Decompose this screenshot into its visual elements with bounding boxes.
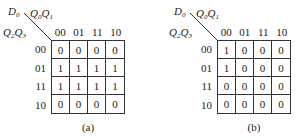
kmap-cell: 1: [106, 77, 124, 95]
column-variables-label: Q0Q1: [30, 8, 53, 23]
row-header: 01: [22, 63, 46, 74]
column-header: 11: [254, 27, 273, 38]
kmap-cell: 0: [106, 95, 124, 113]
kmap-cell: 1: [106, 59, 124, 77]
kmap-cell: 0: [272, 95, 290, 113]
column-header: 10: [273, 27, 292, 38]
row-header: 10: [22, 100, 46, 111]
karnaugh-map-a: D0 Q0Q1 Q2Q3 00 01 11 10 00 01 11 10 0 0…: [0, 0, 148, 138]
kmap-cell: 0: [52, 41, 70, 59]
kmap-grid: 0 0 0 0 1 1 1 1 1 1 1 1 0 0 0 0: [51, 40, 125, 114]
kmap-cell: 0: [254, 77, 272, 95]
output-variable-label: D0: [8, 6, 19, 21]
row-header: 01: [188, 63, 212, 74]
kmap-cell: 1: [70, 59, 88, 77]
kmap-cell: 1: [70, 77, 88, 95]
kmap-grid: 1 0 0 0 1 0 0 0 0 0 0 0 0 0 0 0: [217, 40, 291, 114]
kmap-cell: 0: [106, 41, 124, 59]
kmap-cell: 0: [218, 95, 236, 113]
kmap-cell: 0: [70, 95, 88, 113]
row-header: 00: [188, 44, 212, 55]
output-variable-label: D0: [174, 6, 185, 21]
column-header: 00: [217, 27, 236, 38]
kmap-cell: 0: [70, 41, 88, 59]
row-header: 11: [22, 81, 46, 92]
kmap-cell: 0: [236, 95, 254, 113]
kmap-cell: 0: [254, 95, 272, 113]
kmap-cell: 1: [52, 77, 70, 95]
figure-caption: (b): [217, 121, 291, 133]
column-header: 01: [236, 27, 255, 38]
kmap-cell: 1: [218, 41, 236, 59]
row-header: 11: [188, 81, 212, 92]
kmap-cell: 0: [236, 41, 254, 59]
kmap-cell: 1: [88, 59, 106, 77]
kmap-cell: 0: [236, 59, 254, 77]
figure-caption: (a): [51, 121, 125, 133]
kmap-cell: 1: [218, 59, 236, 77]
karnaugh-map-b: D0 Q0Q1 Q2Q3 00 01 11 10 00 01 11 10 1 0…: [166, 0, 298, 138]
kmap-cell: 0: [272, 41, 290, 59]
column-variables-label: Q0Q1: [196, 8, 219, 23]
column-header: 11: [88, 27, 107, 38]
kmap-cell: 0: [88, 95, 106, 113]
kmap-cell: 0: [218, 77, 236, 95]
kmap-cell: 0: [272, 59, 290, 77]
kmap-cell: 1: [52, 59, 70, 77]
kmap-cell: 0: [254, 59, 272, 77]
column-header: 10: [107, 27, 126, 38]
column-header: 01: [70, 27, 89, 38]
kmap-cell: 0: [88, 41, 106, 59]
kmap-cell: 0: [236, 77, 254, 95]
row-variables-label: Q2Q3: [169, 27, 192, 42]
kmap-cell: 0: [254, 41, 272, 59]
kmap-cell: 1: [88, 77, 106, 95]
row-header: 00: [22, 44, 46, 55]
row-header: 10: [188, 100, 212, 111]
kmap-cell: 0: [272, 77, 290, 95]
row-variables-label: Q2Q3: [3, 27, 26, 42]
kmap-cell: 0: [52, 95, 70, 113]
column-header: 00: [51, 27, 70, 38]
